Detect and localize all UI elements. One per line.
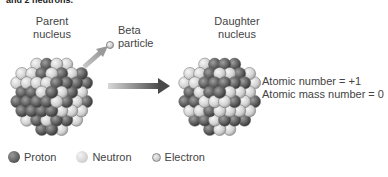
atomic-mass-change: Atomic mass number = 0 — [262, 88, 384, 101]
parent-nucleus — [11, 58, 93, 135]
beta-particle-icon — [107, 42, 114, 49]
atomic-number-change: Atomic number = +1 — [262, 75, 361, 88]
legend-electron: Electron — [152, 151, 205, 163]
legend-proton-label: Proton — [24, 151, 56, 163]
reaction-arrow-icon — [108, 78, 170, 94]
neutron-icon — [76, 151, 88, 163]
legend-proton: Proton — [8, 151, 56, 163]
legend: Proton Neutron Electron — [8, 151, 221, 163]
proton-icon — [8, 151, 20, 163]
electron-icon — [152, 153, 161, 162]
daughter-nucleus — [179, 58, 261, 135]
legend-neutron-label: Neutron — [92, 151, 131, 163]
emission-arrow-icon — [84, 46, 108, 67]
legend-neutron: Neutron — [76, 151, 131, 163]
legend-electron-label: Electron — [165, 151, 205, 163]
